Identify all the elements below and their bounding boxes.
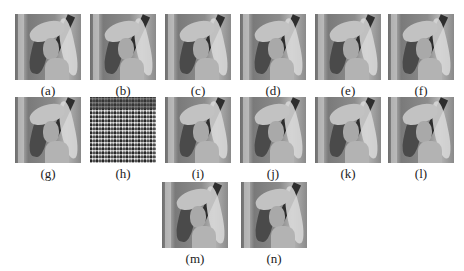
figure-panel: (m) xyxy=(162,182,230,267)
panel-label: (i) xyxy=(165,166,231,182)
figure-panel: (a) xyxy=(15,14,83,99)
figure-panel: (d) xyxy=(240,14,308,99)
lena-image xyxy=(240,97,306,163)
figure-panel: (i) xyxy=(165,97,233,182)
lena-image xyxy=(90,14,156,80)
lena-image xyxy=(388,97,454,163)
figure-panel: (b) xyxy=(90,14,158,99)
lena-image xyxy=(240,14,306,80)
figure-panel: (e) xyxy=(315,14,383,99)
figure-panel: (l) xyxy=(388,97,456,182)
figure-panel: (h) xyxy=(90,97,158,182)
lena-image xyxy=(388,14,454,80)
figure-panel: (j) xyxy=(240,97,308,182)
panel-label: (l) xyxy=(388,166,454,182)
figure-panel: (n) xyxy=(241,182,309,267)
figure-panel: (g) xyxy=(15,97,83,182)
panel-label: (j) xyxy=(240,166,306,182)
lena-image xyxy=(241,182,307,248)
panel-label: (g) xyxy=(15,166,81,182)
noise-image xyxy=(90,97,156,163)
lena-image xyxy=(315,14,381,80)
panel-label: (n) xyxy=(241,251,307,267)
lena-image xyxy=(165,97,231,163)
panel-label: (m) xyxy=(162,251,228,267)
lena-image xyxy=(15,14,81,80)
lena-image xyxy=(315,97,381,163)
panel-label: (h) xyxy=(90,166,156,182)
figure-panel: (f) xyxy=(388,14,456,99)
lena-image xyxy=(162,182,228,248)
lena-image xyxy=(15,97,81,163)
figure-panel: (c) xyxy=(165,14,233,99)
panel-label: (k) xyxy=(315,166,381,182)
lena-image xyxy=(165,14,231,80)
figure-panel: (k) xyxy=(315,97,383,182)
